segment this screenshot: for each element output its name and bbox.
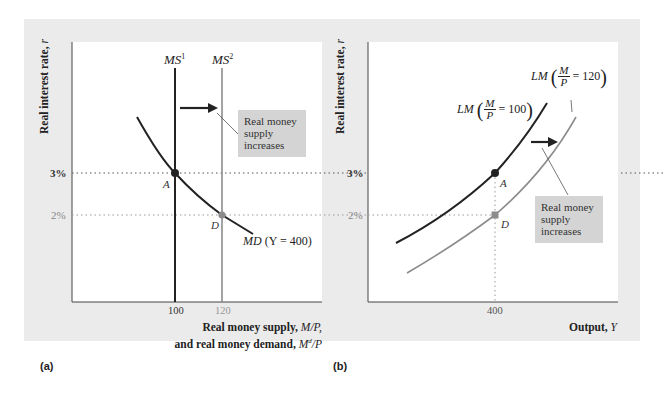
callout-b-line2: supply: [541, 213, 597, 225]
panel-a-tag: (a): [40, 360, 53, 372]
panel-a-ytick-2: 2%: [51, 209, 66, 221]
point-a-dot-b: [491, 169, 499, 177]
lm1-label: LM ( M P = 100 ): [457, 98, 533, 121]
point-d-label-b: D: [501, 218, 509, 230]
callout-a-line3: increases: [244, 139, 300, 151]
point-a-label-b: A: [500, 177, 507, 189]
panel-a-xtick-120: 120: [215, 305, 231, 316]
panel-b-x-axis-label: Output, Y: [569, 320, 617, 334]
callout-a: Real money supply increases: [238, 110, 306, 157]
panel-b-y-axis-label: Real interest rate, r: [334, 39, 346, 134]
panel-b-ytick-2: 2%: [348, 209, 363, 221]
callout-b-line3: increases: [541, 225, 597, 237]
ms1-label: MS1: [164, 52, 185, 68]
point-d-dot-b: [492, 212, 499, 219]
panel-a-plot-area: [72, 42, 322, 302]
panel-a-x-axis-label: Real money supply, M/P, and real money d…: [175, 320, 322, 351]
panel-b-xtick-400: 400: [487, 305, 503, 316]
lm2-label: LM ( M P = 120 ): [531, 65, 607, 88]
callout-a-line1: Real money: [244, 115, 300, 127]
point-d-dot: [218, 211, 225, 218]
point-a-dot: [171, 169, 179, 177]
ms2-label: MS2: [212, 52, 233, 68]
panel-b-ytick-3: 3%: [347, 167, 364, 179]
panel-a-xtick-100: 100: [168, 305, 184, 316]
callout-a-line2: supply: [244, 127, 300, 139]
point-d-label: D: [211, 219, 219, 231]
md-label: MD (Y = 400): [243, 234, 312, 249]
panel-b-tag: (b): [333, 360, 347, 372]
panel-a-ytick-3: 3%: [50, 167, 67, 179]
point-a-label: A: [163, 178, 170, 190]
callout-b-line1: Real money: [541, 201, 597, 213]
panel-a-y-axis-label: Real interest rate, r: [38, 39, 50, 134]
callout-b: Real money supply increases: [535, 196, 603, 243]
